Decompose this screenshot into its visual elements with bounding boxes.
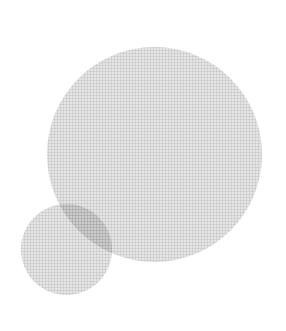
small-circle-texture <box>21 204 112 295</box>
texture-fill <box>21 204 112 295</box>
texture-layer <box>0 0 286 331</box>
image-canvas <box>0 0 286 331</box>
